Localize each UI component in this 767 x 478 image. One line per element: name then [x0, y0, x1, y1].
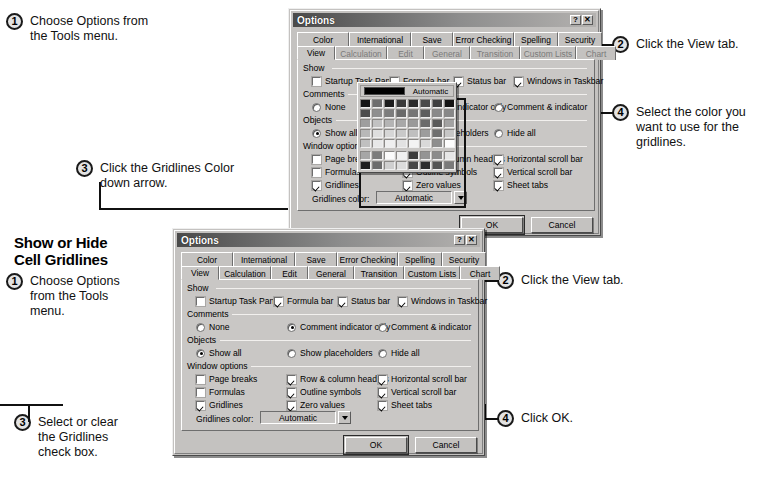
color-swatch[interactable]: [432, 161, 443, 170]
color-swatch[interactable]: [432, 109, 443, 118]
tab-security[interactable]: Security: [442, 252, 486, 266]
checkbox-gridlines[interactable]: Gridlines: [196, 400, 243, 410]
color-swatch[interactable]: [420, 119, 431, 128]
help-icon[interactable]: ?: [570, 15, 581, 25]
dialog-titlebar-2[interactable]: Options ? ✕: [177, 233, 480, 247]
tab-chart[interactable]: Chart: [460, 266, 500, 280]
color-swatch[interactable]: [360, 161, 371, 170]
color-swatch[interactable]: [396, 161, 407, 170]
palette-automatic-row[interactable]: Automatic: [360, 85, 454, 97]
checkbox-box[interactable]: [312, 168, 321, 177]
checkbox-vertical-scroll-bar[interactable]: Vertical scroll bar: [378, 387, 456, 397]
checkbox-box[interactable]: [312, 77, 321, 86]
tab-edit[interactable]: Edit: [271, 266, 308, 280]
color-swatch[interactable]: [396, 109, 407, 118]
color-swatch[interactable]: [372, 119, 383, 128]
cancel-button[interactable]: Cancel: [531, 217, 593, 233]
checkbox-outline-symbols[interactable]: Outline symbols: [287, 387, 361, 397]
checkbox-vertical-scroll-bar[interactable]: Vertical scroll bar: [494, 167, 572, 177]
color-swatch[interactable]: [432, 139, 443, 148]
checkbox-horizontal-scroll-bar[interactable]: Horizontal scroll bar: [378, 374, 467, 384]
gridlines-color-combo[interactable]: Automatic: [376, 191, 467, 204]
checkbox-box[interactable]: [287, 375, 296, 384]
chevron-down-icon[interactable]: [338, 411, 351, 424]
color-swatch[interactable]: [444, 119, 455, 128]
color-swatch[interactable]: [432, 129, 443, 138]
checkbox-sheet-tabs[interactable]: Sheet tabs: [494, 180, 548, 190]
color-swatch[interactable]: [396, 119, 407, 128]
tab-save[interactable]: Save: [411, 32, 453, 46]
palette-grid[interactable]: [360, 99, 454, 148]
checkbox-zero-values[interactable]: Zero values: [287, 400, 345, 410]
radio-comment-and-indicator[interactable]: Comment & indicator: [494, 102, 587, 112]
tab-calculation[interactable]: Calculation: [335, 46, 387, 60]
tab-general[interactable]: General: [424, 46, 470, 60]
color-swatch[interactable]: [420, 139, 431, 148]
checkbox-status-bar[interactable]: Status bar: [454, 76, 506, 86]
color-swatch[interactable]: [372, 139, 383, 148]
color-swatch[interactable]: [408, 99, 419, 108]
gridlines-color-value[interactable]: Automatic: [376, 191, 452, 204]
checkbox-gridlines[interactable]: Gridlines: [312, 180, 359, 190]
checkbox-box[interactable]: [196, 297, 205, 306]
color-swatch[interactable]: [372, 129, 383, 138]
checkbox-box[interactable]: [398, 297, 407, 306]
color-swatch[interactable]: [444, 151, 455, 160]
dialog-tabs-row-2[interactable]: View Calculation Edit General Transition…: [297, 46, 616, 60]
radio-dot[interactable]: [287, 349, 296, 358]
tab-spelling[interactable]: Spelling: [514, 32, 558, 46]
checkbox-box[interactable]: [287, 388, 296, 397]
tab-international[interactable]: International: [349, 32, 411, 46]
tab-calculation[interactable]: Calculation: [219, 266, 271, 280]
checkbox-box[interactable]: [514, 77, 523, 86]
tab-view[interactable]: View: [181, 266, 219, 280]
tab-save[interactable]: Save: [295, 252, 337, 266]
tab-custom-lists[interactable]: Custom Lists: [404, 266, 460, 280]
checkbox-windows-in-taskbar[interactable]: Windows in Taskbar: [514, 76, 603, 86]
tab-edit[interactable]: Edit: [387, 46, 424, 60]
radio-comments-none[interactable]: None: [312, 102, 346, 112]
checkbox-formula-bar[interactable]: Formula bar: [274, 296, 333, 306]
color-swatch[interactable]: [372, 109, 383, 118]
color-swatch[interactable]: [396, 129, 407, 138]
color-swatch[interactable]: [396, 99, 407, 108]
color-swatch[interactable]: [420, 99, 431, 108]
radio-dot[interactable]: [196, 323, 205, 332]
color-swatch[interactable]: [444, 139, 455, 148]
radio-comments-none[interactable]: None: [196, 322, 230, 332]
color-swatch[interactable]: [372, 99, 383, 108]
tab-color[interactable]: Color: [181, 252, 233, 266]
color-swatch[interactable]: [444, 99, 455, 108]
color-swatch[interactable]: [432, 99, 443, 108]
gridlines-color-value[interactable]: Automatic: [260, 411, 336, 424]
color-swatch[interactable]: [396, 139, 407, 148]
color-swatch[interactable]: [420, 161, 431, 170]
color-swatch[interactable]: [360, 109, 371, 118]
tab-transition[interactable]: Transition: [354, 266, 404, 280]
tab-color[interactable]: Color: [297, 32, 349, 46]
chevron-down-icon[interactable]: [454, 191, 467, 204]
radio-dot[interactable]: [494, 129, 503, 138]
dialog-titlebar[interactable]: Options ? ✕: [293, 13, 596, 27]
color-swatch[interactable]: [360, 151, 371, 160]
dialog-tabs-row-1[interactable]: Color International Save Error Checking …: [297, 32, 602, 46]
palette-grid-bottom[interactable]: [360, 151, 454, 170]
checkbox-status-bar[interactable]: Status bar: [338, 296, 390, 306]
checkbox-row-column-headers[interactable]: Row & column headers: [287, 374, 389, 384]
color-swatch[interactable]: [384, 119, 395, 128]
dialog-tabs-row-2[interactable]: View Calculation Edit General Transition…: [181, 266, 500, 280]
tab-view[interactable]: View: [297, 46, 335, 60]
radio-dot[interactable]: [378, 323, 387, 332]
cancel-button[interactable]: Cancel: [415, 437, 477, 453]
radio-dot[interactable]: [378, 349, 387, 358]
radio-dot[interactable]: [196, 349, 205, 358]
radio-objects-show-placeholders[interactable]: Show placeholders: [287, 348, 373, 358]
color-swatch[interactable]: [384, 151, 395, 160]
color-swatch[interactable]: [444, 109, 455, 118]
radio-dot[interactable]: [312, 103, 321, 112]
checkbox-box[interactable]: [338, 297, 347, 306]
checkbox-windows-in-taskbar[interactable]: Windows in Taskbar: [398, 296, 487, 306]
color-swatch[interactable]: [432, 151, 443, 160]
checkbox-box[interactable]: [196, 401, 205, 410]
color-swatch[interactable]: [408, 151, 419, 160]
